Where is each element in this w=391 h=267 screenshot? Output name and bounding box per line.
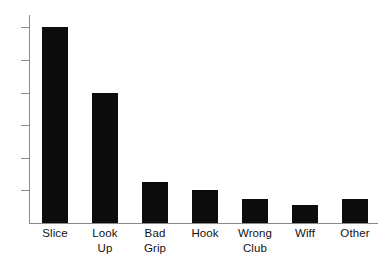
x-axis-category-label: Hook [177,226,233,241]
x-axis-category-label: Other [327,226,383,241]
bar [292,205,318,223]
x-axis-category-label: Wiff [277,226,333,241]
bar [92,93,118,223]
bar [42,27,68,223]
x-axis-category-label: Wrong Club [227,226,283,255]
x-axis-category-label: Look Up [77,226,133,255]
bar [142,182,168,223]
x-axis-category-label: Slice [27,226,83,241]
bar-chart-figure: SliceLook UpBad GripHookWrong ClubWiffOt… [0,0,391,267]
bar [342,199,368,223]
x-axis-category-labels: SliceLook UpBad GripHookWrong ClubWiffOt… [0,226,391,267]
x-axis-category-label: Bad Grip [127,226,183,255]
bar [242,199,268,223]
bar [192,190,218,223]
